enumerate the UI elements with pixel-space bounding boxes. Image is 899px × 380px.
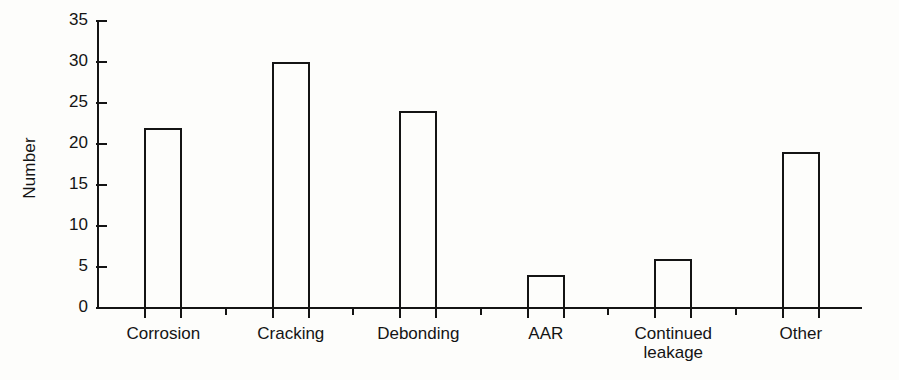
y-axis-tick: 20	[96, 143, 107, 145]
x-axis-category-label: Other	[780, 324, 823, 343]
x-axis-minor-tick	[480, 307, 482, 315]
y-axis-tick-label: 25	[69, 93, 88, 110]
y-axis-tick: 0	[96, 307, 107, 309]
y-axis-tick: 10	[96, 225, 107, 227]
x-axis-category-label: Continued leakage	[635, 324, 713, 362]
bar	[654, 259, 692, 310]
y-axis-tick: 35	[96, 20, 107, 22]
y-axis-title: Number	[16, 18, 44, 318]
x-axis-category-label: Cracking	[257, 324, 324, 343]
y-axis-tick: 5	[96, 266, 107, 268]
x-axis-minor-tick	[225, 307, 227, 315]
y-axis-tick: 30	[96, 61, 107, 63]
x-axis-category-label: Debonding	[377, 324, 459, 343]
x-axis-minor-tick	[735, 307, 737, 315]
bar	[782, 152, 820, 310]
y-axis-tick-label: 15	[69, 175, 88, 192]
y-axis-tick-label: 35	[69, 11, 88, 28]
y-axis-tick-label: 0	[79, 298, 88, 315]
y-axis-tick-label: 10	[69, 216, 88, 233]
bar-chart-figure: Number 05101520253035 CorrosionCrackingD…	[0, 0, 899, 380]
y-axis-tick: 25	[96, 102, 107, 104]
bar	[144, 128, 182, 310]
y-axis-tick-label: 5	[79, 257, 88, 274]
x-axis-minor-tick	[607, 307, 609, 315]
y-axis-tick: 15	[96, 184, 107, 186]
bar	[399, 111, 437, 310]
x-axis-category-label: AAR	[528, 324, 563, 343]
bar	[527, 275, 565, 310]
x-axis-minor-tick	[352, 307, 354, 315]
y-axis-tick-label: 20	[69, 134, 88, 151]
bar	[272, 62, 310, 310]
plot-area: 05101520253035 CorrosionCrackingDebondin…	[97, 21, 862, 308]
y-axis-tick-label: 30	[69, 52, 88, 69]
x-axis-category-label: Corrosion	[126, 324, 200, 343]
